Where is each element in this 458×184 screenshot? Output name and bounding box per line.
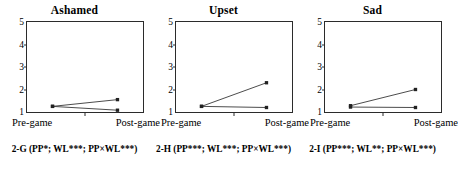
series-line [351,90,416,106]
x-axis-labels: Pre-game Post-game [175,117,293,129]
data-point-marker [414,88,417,91]
y-tick-label-1: 1 [2,108,24,117]
x-tick-label-pre-game: Pre-game [12,117,52,129]
x-tick-mark-center [234,112,235,116]
series-lines [325,22,441,112]
x-axis-labels: Pre-game Post-game [324,117,442,129]
chart-title: Upset [149,0,298,17]
x-axis-labels: Pre-game Post-game [26,117,144,129]
plot-area-sad: 1 2 3 4 5 Pre-game Post-game [298,17,447,121]
data-point-marker [116,98,119,101]
series-line [202,106,267,107]
y-tick-label-2: 2 [151,85,173,94]
series-line [202,83,267,107]
y-tick-label-3: 3 [2,63,24,72]
data-point-marker [265,106,268,109]
y-tick-label-3: 3 [151,63,173,72]
y-tick-label-2: 2 [300,85,322,94]
series-line [53,100,118,107]
y-tick-label-5: 5 [2,18,24,27]
chart-panel-sad: Sad 1 2 3 4 5 Pre-game Post-game 2-I (PP… [298,0,447,184]
plot-frame: 1 2 3 4 5 [26,21,144,113]
plot-area-ashamed: 1 2 3 4 5 Pre-game Post-game [0,17,149,121]
x-tick-mark-center [85,112,86,116]
x-tick-mark-center [383,112,384,116]
y-tick-label-4: 4 [2,40,24,49]
plot-frame: 1 2 3 4 5 [324,21,442,113]
series-line [53,106,118,110]
data-point-marker [265,81,268,84]
chart-panel-ashamed: Ashamed 1 2 3 4 5 Pre-game Post-game 2-G… [0,0,149,184]
panel-caption: 2-G (PP*; WL***; PP×WL***) [0,143,149,155]
data-point-marker [116,109,119,112]
panel-caption: 2-H (PP***; WL***; PP×WL***) [149,143,298,155]
data-point-marker [414,106,417,109]
plot-frame: 1 2 3 4 5 [175,21,293,113]
plot-area-upset: 1 2 3 4 5 Pre-game Post-game [149,17,298,121]
y-tick-label-4: 4 [151,40,173,49]
y-tick-label-2: 2 [2,85,24,94]
y-tick-label-1: 1 [300,108,322,117]
x-tick-label-post-game: Post-game [414,117,458,129]
x-tick-label-pre-game: Pre-game [161,117,201,129]
data-point-marker [349,105,352,108]
y-tick-label-5: 5 [151,18,173,27]
y-tick-label-1: 1 [151,108,173,117]
y-tick-label-3: 3 [300,63,322,72]
chart-title: Sad [298,0,447,17]
x-tick-label-pre-game: Pre-game [310,117,350,129]
chart-panel-upset: Upset 1 2 3 4 5 Pre-game Post-game 2-H (… [149,0,298,184]
series-lines [176,22,292,112]
chart-title: Ashamed [0,0,149,17]
panel-caption: 2-I (PP***; WL**; PP×WL***) [298,143,447,155]
data-point-marker [51,105,54,108]
y-tick-label-5: 5 [300,18,322,27]
data-point-marker [200,105,203,108]
y-tick-label-4: 4 [300,40,322,49]
series-lines [27,22,143,112]
